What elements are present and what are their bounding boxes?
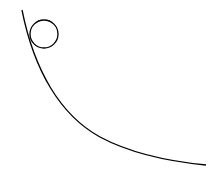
ball-circle [30, 20, 58, 48]
diagram-canvas [0, 0, 217, 179]
ramp-curve [22, 10, 206, 165]
